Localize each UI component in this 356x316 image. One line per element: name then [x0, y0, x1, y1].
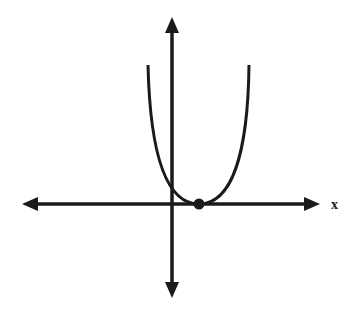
x-axis-left-arrow-icon	[22, 197, 38, 211]
y-axis-up-arrow-icon	[165, 17, 179, 33]
parabola-curve	[148, 65, 249, 204]
vertex-point	[194, 199, 205, 210]
x-axis-right-arrow-icon	[304, 197, 320, 211]
x-axis-label: x	[331, 198, 338, 212]
y-axis-down-arrow-icon	[165, 282, 179, 298]
graph-canvas	[0, 0, 356, 316]
